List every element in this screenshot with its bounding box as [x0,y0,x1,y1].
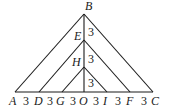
segment-GH [62,67,84,92]
label-C: C [151,94,160,108]
label-E: E [73,29,82,43]
label-G: G [56,94,65,108]
label-D: D [33,94,43,108]
label-F: F [125,94,134,108]
length-GO: 3 [70,94,76,108]
label-I: I [102,94,108,108]
length-HO: 3 [88,76,94,90]
length-BE: 3 [88,25,94,39]
length-DG: 3 [47,94,53,108]
length-IF: 3 [115,94,121,108]
length-EH: 3 [88,52,94,66]
nested-triangle-diagram: B E H 3 3 3 A 3 D 3 G 3 O 3 I 3 F 3 C [0,0,169,112]
length-AD: 3 [23,94,29,108]
length-OI: 3 [93,94,99,108]
label-H: H [71,55,82,69]
label-B: B [85,0,93,13]
label-O: O [79,94,88,108]
label-A: A [8,94,17,108]
length-FC: 3 [141,94,147,108]
segment-BC [84,14,153,92]
